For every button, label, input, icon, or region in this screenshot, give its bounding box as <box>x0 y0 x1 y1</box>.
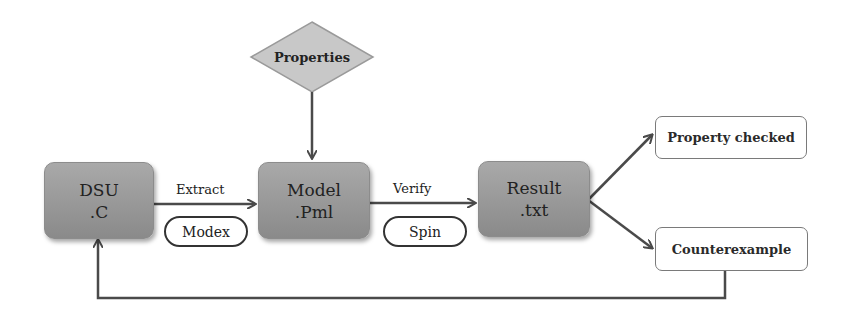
counterexample-node: Counterexample <box>655 227 808 271</box>
dsu-ext: .C <box>90 201 108 223</box>
modex-tool: Modex <box>164 216 248 247</box>
extract-label: Extract <box>176 182 225 197</box>
result-ext: .txt <box>520 199 549 221</box>
dsu-node: DSU .C <box>44 162 154 239</box>
model-name: Model <box>287 179 341 201</box>
property-checked-node: Property checked <box>655 116 807 159</box>
model-ext: .Pml <box>295 201 333 223</box>
feedback-loop-arrow <box>98 240 725 298</box>
result-node: Result .txt <box>478 161 590 237</box>
properties-label: Properties <box>251 40 373 74</box>
verify-label: Verify <box>393 181 431 196</box>
result-to-property-checked-arrow <box>588 135 652 200</box>
dsu-name: DSU <box>79 179 119 201</box>
model-node: Model .Pml <box>258 162 370 239</box>
result-name: Result <box>507 177 562 199</box>
spin-tool: Spin <box>383 216 467 247</box>
result-to-counterexample-arrow <box>588 200 652 248</box>
